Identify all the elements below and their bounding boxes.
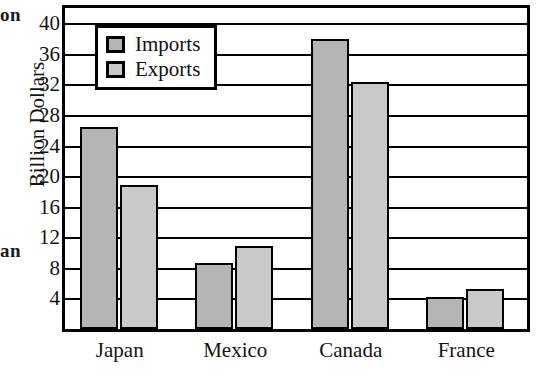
bar-france-imports: [426, 297, 464, 329]
cropped-text-fragment-top: on: [0, 4, 21, 26]
y-tick-label: 24: [22, 135, 60, 156]
bar-canada-imports: [311, 39, 349, 329]
legend-item-imports: Imports: [106, 32, 200, 57]
y-tick-label: 20: [22, 166, 60, 187]
y-tick-label: 16: [22, 196, 60, 217]
chart-legend: Imports Exports: [95, 25, 217, 90]
legend-swatch-exports: [106, 61, 125, 78]
x-tick-label-japan: Japan: [96, 338, 144, 363]
y-tick-label: 4: [22, 288, 60, 309]
chart-plot-area: Imports Exports: [62, 5, 530, 332]
legend-swatch-imports: [106, 36, 125, 53]
bar-japan-exports: [120, 185, 158, 329]
x-axis-category-labels: JapanMexicoCanadaFrance: [62, 338, 530, 370]
y-tick-label: 28: [22, 105, 60, 126]
x-tick-label-france: France: [438, 338, 495, 363]
y-tick-label: 12: [22, 227, 60, 248]
y-axis-tick-labels: 481216202428323640: [22, 0, 60, 376]
legend-item-exports: Exports: [106, 57, 200, 82]
cropped-text-fragment-middle: an: [0, 240, 21, 262]
bar-france-exports: [466, 289, 504, 329]
bar-mexico-exports: [235, 246, 273, 329]
legend-label-exports: Exports: [135, 59, 200, 80]
bar-japan-imports: [80, 127, 118, 329]
bar-mexico-imports: [195, 263, 233, 329]
x-tick-label-canada: Canada: [319, 338, 382, 363]
y-tick-label: 8: [22, 257, 60, 278]
bar-canada-exports: [351, 82, 389, 329]
y-tick-label: 32: [22, 74, 60, 95]
legend-label-imports: Imports: [135, 34, 200, 55]
x-tick-label-mexico: Mexico: [203, 338, 267, 363]
y-tick-label: 40: [22, 13, 60, 34]
y-tick-label: 36: [22, 43, 60, 64]
